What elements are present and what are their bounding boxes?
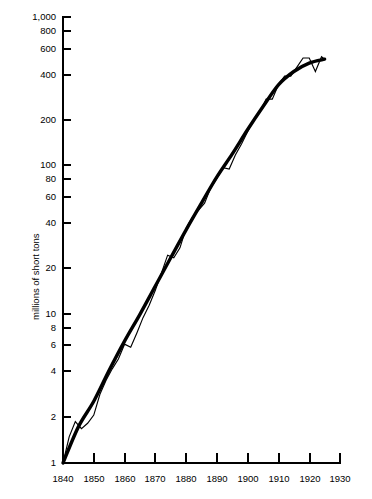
coal-production-chart: 1,000 800 600 400 200 100 80 60 40 20 10… [0,0,372,499]
plot-area [0,0,372,499]
data-line [63,57,325,463]
trend-line [63,59,325,463]
